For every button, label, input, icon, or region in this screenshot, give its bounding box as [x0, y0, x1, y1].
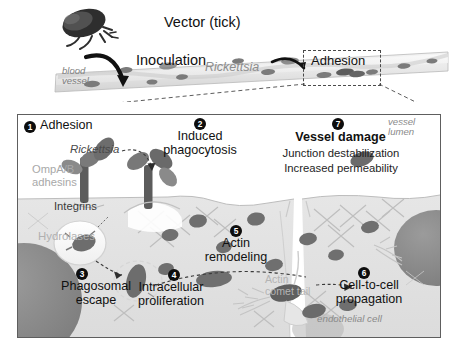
step-marker-7: 7: [332, 118, 344, 130]
adhesion-callout-label: Adhesion: [311, 54, 365, 69]
step-title-cell-to-cell-propagation: Cell-to-cell propagation: [310, 278, 428, 306]
vector-label: Vector (tick): [164, 14, 241, 30]
endothelial-cell-label: endothelial cell: [317, 314, 382, 325]
increased-permeability-label: Increased permeability: [261, 162, 421, 175]
step-title-actin-remodeling: Actin remodeling: [184, 236, 288, 264]
step-title-adhesion: Adhesion: [40, 118, 93, 132]
top-scene: Vector (tick) Inoculation Rickettsia blo…: [0, 0, 454, 102]
blood-vessel-label: blood vessel: [62, 66, 89, 86]
step-marker-1: 1: [24, 121, 36, 133]
figure-root: Vector (tick) Inoculation Rickettsia blo…: [0, 0, 454, 347]
junction-destabilization-label: Junction destabilization: [261, 147, 421, 160]
inoculation-label: Inoculation: [136, 52, 206, 68]
main-panel: 1 Adhesion Rickettsia OmpA/B adhesins In…: [17, 114, 441, 338]
step-title-induced-phagocytosis: Induced phagocytosis: [145, 129, 255, 157]
tick-icon: [59, 4, 118, 49]
integrins-label: Integrins: [54, 200, 97, 213]
step-title-intracellular-proliferation: Intracellular proliferation: [106, 280, 236, 308]
actin-comet-tail-label: Actin comet tail: [265, 274, 310, 297]
hydrolases-label: Hydrolases: [38, 230, 95, 243]
vessel-lumen-label: vessel lumen: [388, 117, 415, 138]
rickettsia-label-panel: Rickettsia: [70, 143, 119, 156]
ompab-adhesins-label: OmpA/B adhesins: [32, 163, 77, 188]
rickettsia-label-top: Rickettsia: [205, 60, 259, 74]
